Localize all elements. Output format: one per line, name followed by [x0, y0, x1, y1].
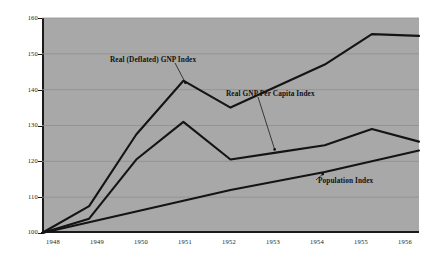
annotation-label-population: Population Index — [318, 176, 373, 185]
chart-figure: 160 150 140 130 120 110 100 1948 1949 19… — [0, 0, 434, 263]
annotation-leader-lines — [175, 63, 324, 180]
annotation-label-gnp: Real (Deflated) GNP Index — [110, 55, 196, 64]
series-lines — [42, 34, 419, 233]
annotation-label-per-capita: Real GNP Per Capita Index — [226, 89, 315, 98]
chart-svg — [0, 0, 434, 263]
